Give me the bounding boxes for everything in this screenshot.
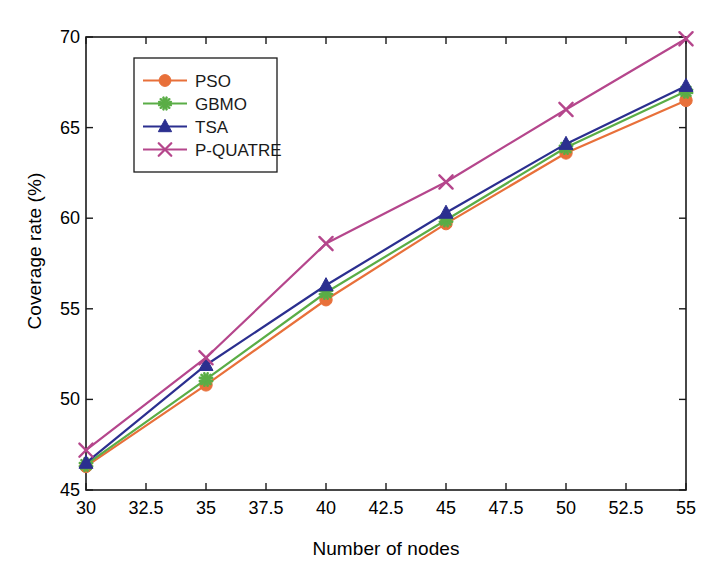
- data-point: [559, 103, 572, 116]
- y-tick-label: 50: [40, 389, 80, 410]
- legend-label: PSO: [195, 72, 231, 91]
- legend-label: P-QUATRE: [195, 141, 282, 160]
- data-point: [439, 175, 452, 188]
- data-point: [679, 78, 693, 91]
- data-point: [439, 205, 453, 218]
- legend-label: GBMO: [195, 95, 247, 114]
- data-point: [319, 278, 333, 291]
- y-tick-label: 55: [40, 299, 80, 320]
- x-tick-label: 55: [651, 498, 721, 519]
- x-axis-tick-labels: 3032.53537.54042.54547.55052.555: [0, 498, 723, 528]
- x-axis-label: Number of nodes: [86, 538, 686, 560]
- legend-label: TSA: [195, 118, 229, 137]
- y-tick-label: 60: [40, 208, 80, 229]
- y-tick-label: 70: [40, 27, 80, 48]
- legend-marker: [159, 75, 171, 87]
- legend[interactable]: PSOGBMOTSAP-QUATRE: [134, 58, 282, 172]
- coverage-rate-line-chart: Coverage rate (%) Number of nodes 455055…: [0, 0, 723, 585]
- y-tick-label: 65: [40, 118, 80, 139]
- data-point: [319, 237, 332, 250]
- data-point: [200, 373, 212, 385]
- legend-marker: [159, 98, 171, 110]
